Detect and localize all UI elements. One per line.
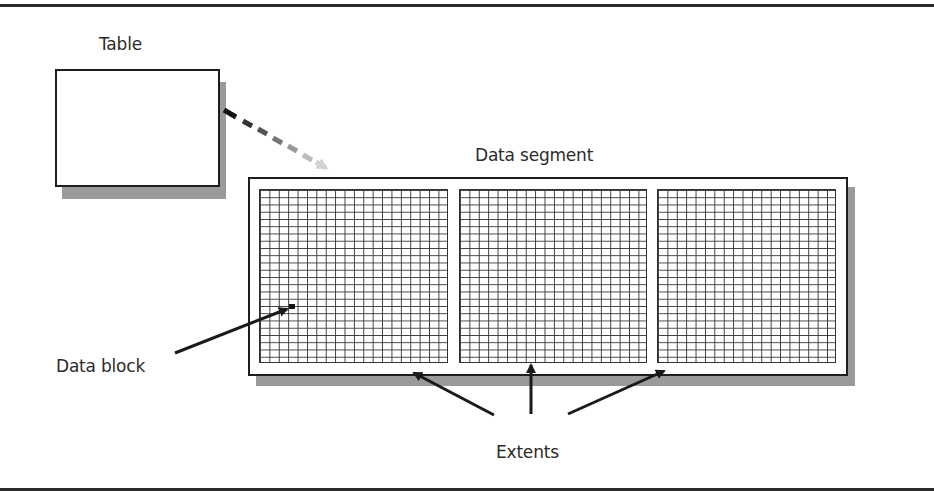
bottom-rule (0, 488, 934, 491)
data-block-arrow (175, 309, 287, 353)
extent-3-arrow (568, 371, 664, 414)
arrows-layer (0, 0, 934, 492)
table-to-segment-arrow (224, 110, 326, 168)
extent-1-arrow (414, 373, 494, 415)
